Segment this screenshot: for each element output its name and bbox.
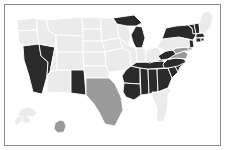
state-LA[interactable] <box>123 83 141 100</box>
state-MI-lower[interactable] <box>131 26 145 48</box>
state-ME[interactable] <box>199 11 213 33</box>
state-NJ[interactable] <box>189 40 194 48</box>
state-TX[interactable] <box>86 78 123 126</box>
state-MI-upper[interactable] <box>113 15 142 26</box>
state-MA[interactable] <box>196 33 205 38</box>
state-MO[interactable] <box>105 48 131 72</box>
state-RI[interactable] <box>201 38 204 41</box>
state-CO[interactable] <box>57 52 84 70</box>
map-svg <box>0 0 225 150</box>
state-SD[interactable] <box>83 29 102 41</box>
state-MS[interactable] <box>140 68 149 95</box>
state-HI[interactable] <box>54 120 66 133</box>
state-AK-tail[interactable] <box>14 116 23 125</box>
screenshot-root <box>0 0 225 150</box>
state-FL[interactable] <box>152 88 171 122</box>
state-OR[interactable] <box>18 30 39 46</box>
state-AZ[interactable] <box>47 70 71 93</box>
state-WY[interactable] <box>56 35 83 52</box>
state-KS[interactable] <box>83 52 106 66</box>
state-OK[interactable] <box>84 66 109 78</box>
state-NM[interactable] <box>71 70 86 95</box>
state-CT[interactable] <box>196 38 201 42</box>
state-ND[interactable] <box>82 17 101 29</box>
state-AL[interactable] <box>148 69 158 94</box>
state-WA[interactable] <box>17 18 37 31</box>
us-choropleth-map <box>0 0 225 150</box>
state-NE[interactable] <box>83 41 105 52</box>
state-IN[interactable] <box>136 48 146 62</box>
